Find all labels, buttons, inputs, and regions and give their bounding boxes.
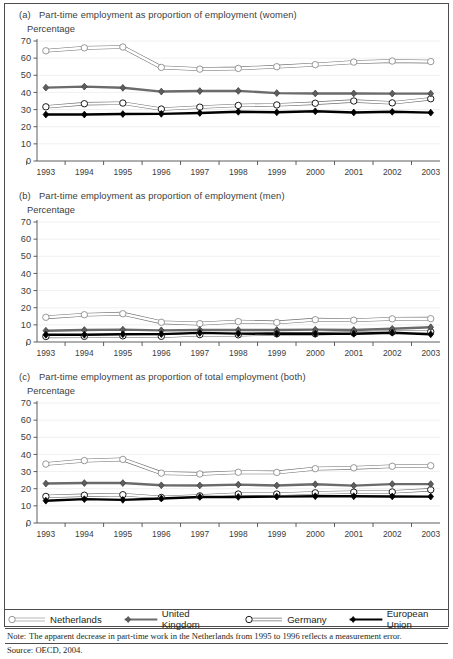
legend-swatch-open-circle-icon [5, 613, 47, 626]
x-tick-label: 1993 [37, 348, 56, 358]
x-tick-label: 2000 [306, 529, 325, 539]
x-tick-label: 2000 [306, 167, 325, 177]
y-tick-label: 10 [21, 320, 31, 330]
data-point [82, 480, 88, 487]
chart-svg: 0102030405060701993199419951996199719981… [5, 397, 448, 547]
x-tick-label: 2000 [306, 348, 325, 358]
note-label: Note: [7, 631, 26, 641]
data-point [351, 90, 357, 97]
y-tick-label: 70 [21, 36, 31, 46]
data-point [43, 461, 49, 467]
data-point [389, 90, 395, 97]
data-point [351, 59, 357, 65]
data-point [351, 465, 357, 471]
legend-label: Germany [287, 614, 326, 625]
x-tick-label: 2001 [344, 167, 363, 177]
data-point [428, 58, 434, 64]
x-tick-label: 2003 [421, 348, 440, 358]
data-point [274, 64, 280, 70]
data-point [197, 482, 203, 489]
legend-swatch-open-circle-icon [242, 613, 284, 626]
chart-panel-a: (a)Part-time employment as proportion of… [5, 4, 448, 185]
data-point [235, 469, 241, 475]
y-tick-label: 70 [21, 398, 31, 408]
data-point [81, 312, 87, 318]
x-tick-label: 1999 [267, 167, 286, 177]
data-point [235, 318, 241, 324]
data-point [158, 319, 164, 325]
data-point [351, 109, 357, 116]
data-point [197, 66, 203, 72]
data-point [312, 465, 318, 471]
panel-tag-b: (b) [19, 190, 39, 201]
data-point [428, 463, 434, 469]
y-tick-label: 20 [21, 303, 31, 313]
x-tick-label: 1999 [267, 529, 286, 539]
data-point [120, 100, 126, 106]
x-tick-label: 1993 [37, 167, 56, 177]
data-point [43, 104, 49, 110]
chart-svg: 0102030405060701993199419951996199719981… [5, 35, 448, 185]
data-point [235, 102, 241, 108]
data-point [197, 110, 203, 117]
data-point [428, 493, 434, 500]
x-tick-label: 1995 [114, 348, 133, 358]
data-point [389, 481, 395, 488]
data-point [197, 88, 203, 95]
legend-label: Netherlands [50, 614, 102, 625]
legend-item-germany[interactable]: Germany [242, 613, 326, 626]
y-axis-label-b: Percentage [5, 203, 448, 216]
data-point [43, 314, 49, 320]
data-point [389, 316, 395, 322]
y-tick-label: 10 [21, 139, 31, 149]
data-point [312, 100, 318, 106]
x-tick-label: 2002 [383, 529, 402, 539]
data-point [43, 48, 49, 54]
x-tick-label: 1998 [229, 167, 248, 177]
data-point [312, 481, 318, 488]
x-tick-label: 2002 [383, 348, 402, 358]
y-tick-label: 40 [21, 450, 31, 460]
data-point [236, 87, 242, 94]
legend-swatch-filled-diamond-icon [347, 613, 384, 626]
data-point [428, 109, 434, 116]
y-tick-label: 30 [21, 467, 31, 477]
data-point [312, 317, 318, 323]
x-tick-label: 2003 [421, 529, 440, 539]
data-point [120, 456, 126, 462]
data-point [120, 84, 126, 91]
x-tick-label: 1996 [152, 348, 171, 358]
data-point [197, 471, 203, 477]
data-point [351, 98, 357, 104]
data-point [43, 480, 49, 487]
x-tick-label: 1997 [190, 529, 209, 539]
data-point [81, 45, 87, 51]
data-point [158, 64, 164, 70]
note-text: The apparent decrease in part-time work … [29, 631, 402, 641]
panel-title-b: (b)Part-time employment as proportion of… [5, 185, 448, 203]
panel-title-text-a: Part-time employment as proportion of em… [39, 9, 297, 20]
legend-item-european-union[interactable]: European Union [347, 608, 448, 630]
data-point [82, 83, 88, 90]
legend-item-united-kingdom[interactable]: United Kingdom [122, 608, 222, 630]
x-tick-label: 2002 [383, 167, 402, 177]
figure-frame: (a)Part-time employment as proportion of… [4, 3, 449, 627]
y-axis-label-a: Percentage [5, 22, 448, 35]
y-tick-label: 30 [21, 105, 31, 115]
legend-label: European Union [387, 608, 448, 630]
data-point [428, 481, 434, 488]
x-tick-label: 2001 [344, 348, 363, 358]
data-point [82, 111, 88, 118]
figure-source: Source: OECD, 2004. [7, 645, 82, 655]
figure-note: Note:The apparent decrease in part-time … [5, 629, 448, 644]
y-tick-label: 60 [21, 53, 31, 63]
x-tick-label: 1996 [152, 529, 171, 539]
y-tick-label: 40 [21, 88, 31, 98]
x-tick-label: 1996 [152, 167, 171, 177]
data-point [158, 470, 164, 476]
data-point [159, 88, 165, 95]
data-point [120, 480, 126, 487]
y-tick-label: 50 [21, 432, 31, 442]
y-tick-label: 30 [21, 286, 31, 296]
legend-item-netherlands[interactable]: Netherlands [5, 613, 102, 626]
